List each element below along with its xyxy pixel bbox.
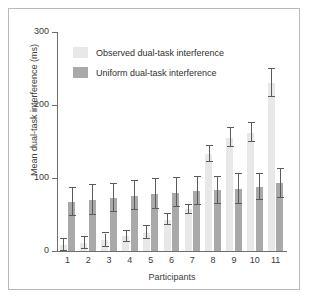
error-cap-upper-2 [89,184,96,185]
error-cap-lower-2 [81,248,88,249]
error-cap-upper-6 [173,177,180,178]
error-cap-lower-5 [143,238,150,239]
error-bar-observed-10 [251,123,252,142]
error-cap-upper-5 [143,225,150,226]
error-bar-observed-9 [230,128,231,147]
bar-group-participant-11 [265,32,286,251]
bar-observed-7 [185,209,192,251]
error-bar-uniform-4 [134,181,135,210]
legend-item-observed: Observed dual-task interference [73,47,224,58]
error-cap-upper-10 [256,173,263,174]
legend-swatch-observed [73,47,88,58]
error-bar-uniform-10 [259,174,260,200]
error-cap-lower-9 [227,146,234,147]
legend-swatch-uniform [73,67,88,78]
x-tick-label-5: 5 [141,255,161,265]
error-cap-lower-11 [268,96,275,97]
x-tick-label-11: 11 [266,255,286,265]
error-cap-upper-9 [227,127,234,128]
error-cap-lower-3 [110,211,117,212]
error-cap-lower-3 [102,246,109,247]
error-cap-upper-1 [69,187,76,188]
error-cap-upper-11 [277,168,284,169]
error-cap-lower-10 [256,199,263,200]
error-cap-upper-7 [194,176,201,177]
error-cap-lower-11 [277,197,284,198]
error-cap-lower-8 [206,161,213,162]
error-bar-uniform-2 [92,185,93,214]
error-cap-lower-2 [89,214,96,215]
error-cap-lower-4 [131,209,138,210]
error-bar-observed-11 [271,69,272,97]
error-bar-uniform-9 [238,174,239,205]
error-bar-uniform-5 [155,179,156,210]
bar-observed-10 [247,133,254,251]
error-bar-uniform-7 [197,177,198,205]
error-cap-upper-9 [235,173,242,174]
bar-observed-11 [268,83,275,251]
error-bar-uniform-6 [176,178,177,207]
error-cap-upper-7 [185,204,192,205]
error-cap-upper-1 [60,238,67,239]
error-bar-uniform-1 [72,188,73,216]
y-tick-label-0: 0 [9,245,49,255]
error-cap-upper-4 [123,230,130,231]
error-cap-lower-9 [235,203,242,204]
x-tick-label-6: 6 [162,255,182,265]
error-cap-upper-4 [131,180,138,181]
error-cap-lower-8 [214,203,221,204]
bar-group-participant-9 [224,32,245,251]
bar-observed-8 [205,154,212,251]
error-cap-upper-2 [81,236,88,237]
error-cap-upper-3 [110,183,117,184]
error-cap-upper-3 [102,232,109,233]
x-tick-label-2: 2 [78,255,98,265]
x-tick-label-7: 7 [182,255,202,265]
y-axis-title: Mean dual-task interference (ms) [29,25,39,195]
error-cap-upper-8 [206,145,213,146]
x-tick-label-4: 4 [120,255,140,265]
error-cap-lower-4 [123,241,130,242]
x-tick-label-9: 9 [224,255,244,265]
error-bar-observed-8 [209,146,210,162]
bar-observed-9 [226,138,233,251]
error-cap-lower-10 [248,141,255,142]
error-cap-lower-6 [164,224,171,225]
x-axis-title: Participants [57,272,287,282]
error-cap-upper-11 [268,68,275,69]
legend-item-uniform: Uniform dual-task interference [73,67,224,78]
x-tick-label-1: 1 [57,255,77,265]
bar-group-participant-10 [244,32,265,251]
legend-label-observed: Observed dual-task interference [96,48,224,58]
error-cap-lower-1 [69,215,76,216]
y-tick-0 [52,251,58,252]
x-tick-label-10: 10 [245,255,265,265]
error-cap-lower-7 [194,204,201,205]
x-axis-line [57,251,287,252]
error-bar-uniform-8 [217,177,218,205]
x-tick-label-3: 3 [99,255,119,265]
error-cap-upper-8 [214,176,221,177]
figure-frame: 0100200300 Mean dual-task interference (… [8,8,300,290]
error-cap-upper-6 [164,213,171,214]
error-bar-uniform-3 [113,184,114,212]
error-cap-lower-5 [152,208,159,209]
x-tick-label-8: 8 [203,255,223,265]
error-bar-uniform-11 [280,169,281,198]
error-cap-lower-1 [60,250,67,251]
chart-legend: Observed dual-task interference Uniform … [73,47,224,87]
error-cap-lower-6 [173,206,180,207]
error-cap-upper-10 [248,122,255,123]
error-cap-upper-5 [152,178,159,179]
legend-label-uniform: Uniform dual-task interference [96,68,217,78]
error-cap-lower-7 [185,213,192,214]
